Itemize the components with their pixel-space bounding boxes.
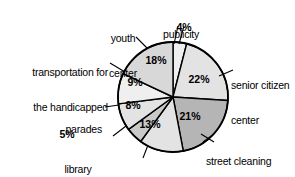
leader-line-library-aides bbox=[113, 126, 126, 136]
slice-label-publicity: publicity bbox=[163, 6, 243, 64]
slice-label-parks: parks bbox=[118, 157, 166, 177]
slice-value-transportation: 9% bbox=[121, 76, 149, 88]
slice-label-transportation-line1: transportation for bbox=[2, 67, 108, 79]
slice-value-publicity: 4% bbox=[168, 21, 200, 33]
slice-value-parks: 13% bbox=[133, 118, 167, 130]
slice-value-youth-center: 18% bbox=[139, 54, 173, 66]
slice-value-library-aides: 5% bbox=[53, 128, 81, 140]
slice-label-transportation-line2: the handicapped bbox=[2, 102, 108, 114]
slice-value-street-cleaning: 21% bbox=[173, 110, 207, 122]
slice-label-senior-citizen-center-line1: senior citizen bbox=[231, 80, 295, 92]
pie-chart: youth center publicity senior citizen ce… bbox=[0, 0, 295, 177]
slice-value-parades: 8% bbox=[119, 99, 147, 111]
slice-label-youth-center-line1: youth bbox=[92, 33, 154, 45]
slice-value-senior-citizen-center: 22% bbox=[182, 73, 216, 85]
slice-label-transportation: transportation for the handicapped bbox=[2, 44, 108, 136]
slice-label-senior-citizen-center-line2: center bbox=[231, 115, 293, 127]
slice-label-library-aides-line1: library bbox=[48, 164, 108, 176]
slice-label-street-cleaning: street cleaning bbox=[206, 133, 294, 177]
slice-label-street-cleaning-line1: street cleaning bbox=[206, 156, 294, 168]
